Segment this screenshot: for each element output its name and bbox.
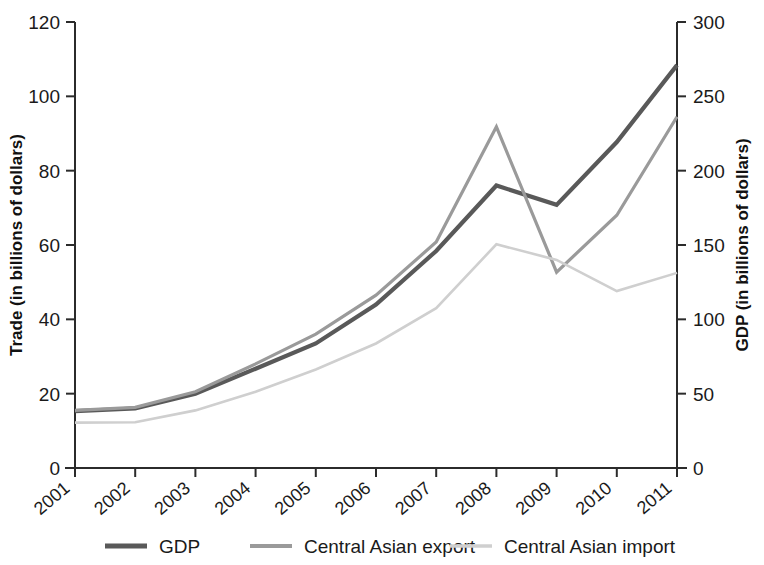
- series-line-central-asian-import: [75, 244, 677, 422]
- right-axis-title: GDP (in billions of dollars): [733, 138, 752, 351]
- left-axis-tick-label: 100: [28, 86, 60, 107]
- left-axis-tick-label: 0: [49, 458, 60, 479]
- x-axis-tick-label: 2005: [271, 478, 315, 519]
- x-axis-tick-label: 2006: [331, 478, 375, 519]
- legend-label-3: Central Asian import: [504, 536, 676, 557]
- right-axis-tick-label: 250: [693, 86, 725, 107]
- right-axis-tick-label: 50: [693, 384, 714, 405]
- legend: GDPCentral Asian exportCentral Asian imp…: [105, 536, 676, 557]
- x-axis-tick-label: 2010: [572, 478, 616, 519]
- right-axis-tick-label: 150: [693, 235, 725, 256]
- left-axis-tick-label: 40: [39, 309, 60, 330]
- left-axis-tick-label: 60: [39, 235, 60, 256]
- x-axis-tick-label: 2008: [451, 478, 495, 519]
- x-axis-tick-label: 2003: [150, 478, 194, 519]
- axes-group: 0204060801001200501001502002503002001200…: [7, 12, 752, 519]
- right-axis-tick-label: 200: [693, 161, 725, 182]
- left-axis-title: Trade (in billions of dollars): [7, 134, 26, 356]
- legend-label-1: GDP: [159, 536, 200, 557]
- series-line-gdp: [75, 65, 677, 411]
- x-axis-tick-label: 2011: [633, 478, 676, 518]
- x-axis-tick-label: 2009: [512, 478, 556, 519]
- series-group: [75, 65, 677, 423]
- x-axis-tick-label: 2004: [211, 478, 255, 519]
- right-axis-tick-label: 300: [693, 12, 725, 33]
- x-axis-tick-label: 2007: [391, 478, 435, 519]
- x-axis-tick-label: 2002: [90, 478, 134, 519]
- series-line-central-asian-export: [75, 117, 677, 411]
- right-axis-tick-label: 0: [693, 458, 704, 479]
- right-axis-tick-label: 100: [693, 309, 725, 330]
- chart-svg: 0204060801001200501001502002503002001200…: [0, 0, 764, 565]
- line-chart-figure: 0204060801001200501001502002503002001200…: [0, 0, 764, 565]
- left-axis-tick-label: 120: [28, 12, 60, 33]
- left-axis-tick-label: 80: [39, 161, 60, 182]
- x-axis-tick-label: 2001: [30, 478, 74, 519]
- left-axis-tick-label: 20: [39, 384, 60, 405]
